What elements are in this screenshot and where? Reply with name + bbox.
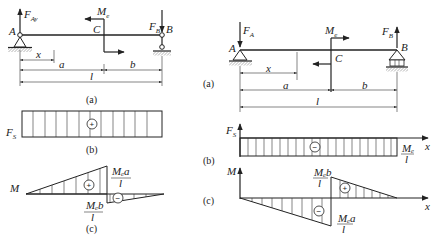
right-force-A-label: FA	[242, 24, 255, 39]
right-moment-x-axis-label: x	[424, 200, 430, 212]
beam-diagrams-canvas: FAy A FB B Me C x a b l (a)	[0, 0, 436, 240]
svg-text:Mₑa: Mₑa	[111, 165, 130, 177]
svg-text:l: l	[318, 177, 321, 189]
right-dim-x: x	[265, 62, 271, 74]
svg-text:Mₑb: Mₑb	[85, 199, 104, 211]
left-moment-pos-sign: +	[87, 181, 92, 190]
right-moment-axis-label: M	[226, 165, 237, 177]
left-dim-a: a	[59, 58, 65, 70]
right-shear-diagram	[240, 124, 428, 157]
left-moment-bottom-value: Mₑb l	[84, 199, 104, 223]
left-moment-label: Me	[96, 5, 109, 20]
left-shear-sign: +	[90, 120, 95, 129]
left-roller-support-B	[153, 33, 171, 56]
left-shear-axis-label: FS	[5, 126, 17, 141]
right-moment-couple	[313, 38, 349, 92]
left-moment-diagram	[26, 166, 164, 203]
right-roller-support-B	[386, 50, 408, 72]
left-dim-b: b	[130, 58, 136, 70]
right-caption-c: (c)	[203, 195, 214, 207]
left-dim-l: l	[90, 70, 93, 82]
left-moment-axis-label: M	[9, 182, 20, 194]
svg-text:l: l	[342, 223, 345, 235]
right-caption-b: (b)	[203, 155, 215, 167]
right-shear-sign: −	[313, 143, 318, 152]
left-caption-c: (c)	[86, 223, 97, 235]
svg-text:l: l	[91, 211, 94, 223]
right-moment-neg-sign: −	[317, 207, 322, 216]
svg-text:Mₑa: Mₑa	[337, 212, 356, 224]
left-moment-neg-sign: −	[116, 194, 121, 203]
right-moment-diagram	[240, 168, 428, 226]
left-point-C-label: C	[93, 23, 101, 35]
right-moment-label: Me	[324, 24, 337, 39]
left-point-A-label: A	[8, 25, 16, 37]
right-dim-l: l	[316, 95, 319, 107]
right-point-A-label: A	[228, 42, 236, 54]
left-moment-top-value: Mₑa l	[111, 165, 131, 189]
right-dim-b: b	[362, 79, 368, 91]
left-force-B-label: FB	[148, 20, 161, 35]
right-caption-a: (a)	[203, 78, 214, 90]
right-beam-figure: FA A FB B Me C x a b l (a)	[203, 22, 430, 235]
svg-text:l: l	[119, 177, 122, 189]
left-force-A-label: FAy	[23, 8, 39, 23]
right-point-B-label: B	[401, 41, 408, 53]
left-dim-x: x	[35, 48, 41, 60]
left-beam-figure: FAy A FB B Me C x a b l (a)	[5, 5, 173, 235]
right-dim-a: a	[283, 79, 289, 91]
left-caption-a: (a)	[86, 94, 97, 106]
left-point-B-label: B	[166, 23, 173, 35]
left-caption-b: (b)	[86, 144, 98, 156]
right-shear-axis-label: FS	[225, 124, 237, 139]
right-moment-pos-sign: +	[343, 184, 348, 193]
svg-text:Mₑb: Mₑb	[313, 166, 332, 178]
right-shear-x-axis-label: x	[424, 140, 430, 152]
right-shear-value: Mₑ l	[401, 142, 414, 165]
right-moment-top-value: Mₑb l	[313, 166, 332, 189]
right-force-B-label: FB	[381, 25, 394, 40]
right-point-C-label: C	[335, 52, 343, 64]
svg-text:l: l	[405, 153, 408, 165]
right-moment-bottom-value: Mₑa l	[337, 212, 356, 235]
